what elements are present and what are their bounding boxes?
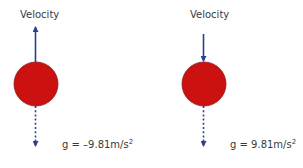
- velocity-label-right: Velocity: [190, 10, 229, 20]
- gravity-value-right: g = 9.81m/s: [230, 139, 292, 150]
- ball-left: [14, 62, 58, 106]
- velocity-label-left: Velocity: [20, 10, 59, 20]
- exponent-left: 2: [129, 138, 133, 146]
- exponent-right: 2: [292, 138, 296, 146]
- gravity-value-left: g = –9.81m/s: [62, 139, 129, 150]
- ball-right: [182, 62, 226, 106]
- gravity-label-right: g = 9.81m/s2: [230, 140, 296, 150]
- right-panel: [182, 34, 226, 146]
- gravity-label-left: g = –9.81m/s2: [62, 140, 133, 150]
- left-panel: [14, 27, 58, 146]
